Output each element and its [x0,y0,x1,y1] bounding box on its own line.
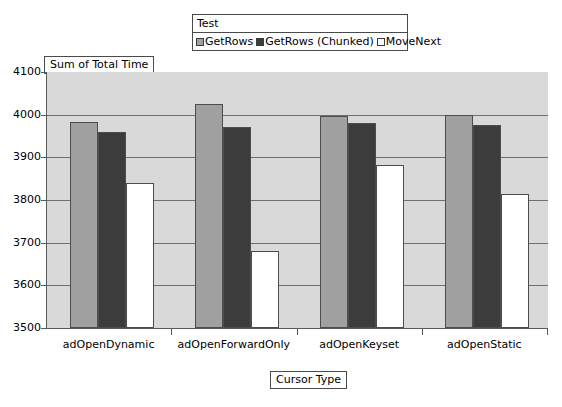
x-tick-mark [171,329,172,335]
bar-group [423,72,548,328]
legend-entry-label: GetRows (Chunked) [265,35,374,48]
legend-entry[interactable]: MoveNext [377,35,441,48]
plot-inner [47,72,548,328]
x-tick-mark [547,329,548,335]
legend-swatch-icon [256,38,264,46]
bar-group [298,72,423,328]
x-tick-label: adOpenKeyset [297,338,422,351]
legend-swatch-icon [196,38,204,46]
bar[interactable] [501,194,529,328]
bar[interactable] [320,116,348,328]
legend-entry-label: MoveNext [386,35,441,48]
x-tick-mark [422,329,423,335]
bar[interactable] [70,122,98,328]
legend-entry[interactable]: GetRows (Chunked) [256,35,374,48]
bar[interactable] [473,125,501,328]
x-tick-label: adOpenStatic [422,338,547,351]
y-tick-label: 3900 [13,151,41,162]
y-tick-label: 3600 [13,279,41,290]
bar[interactable] [98,132,126,328]
y-tick-label: 3800 [13,194,41,205]
y-axis-ticks: 3500360037003800390040004100 [0,0,41,407]
x-tick-label: adOpenForwardOnly [171,338,296,351]
bar[interactable] [348,123,376,328]
y-tick-label: 3500 [13,322,41,333]
bar[interactable] [251,251,279,328]
x-tick-mark [297,329,298,335]
legend-entries: GetRowsGetRows (Chunked)MoveNext [193,33,407,50]
bar-group [47,72,172,328]
y-tick-label: 4100 [13,66,41,77]
bar[interactable] [376,165,404,328]
legend-title: Test [193,15,407,33]
bar-group [172,72,297,328]
x-axis-title: Cursor Type [270,371,347,389]
y-tick-label: 4000 [13,109,41,120]
legend-swatch-icon [377,38,385,46]
legend-entry-label: GetRows [205,35,253,48]
legend-entry[interactable]: GetRows [196,35,253,48]
bar-chart: Test GetRowsGetRows (Chunked)MoveNext Su… [0,0,562,407]
bar[interactable] [126,183,154,328]
x-tick-label: adOpenDynamic [46,338,171,351]
plot-area [46,72,548,329]
y-tick-label: 3700 [13,237,41,248]
bar[interactable] [223,127,251,328]
bar[interactable] [195,104,223,328]
chart-legend: Test GetRowsGetRows (Chunked)MoveNext [192,14,408,51]
bar[interactable] [445,115,473,328]
